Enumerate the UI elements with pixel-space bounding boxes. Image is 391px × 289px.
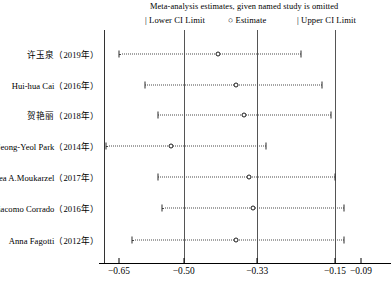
x-axis-tick xyxy=(183,258,184,263)
x-axis-tick-label: −0.33 xyxy=(246,266,268,276)
study-label: Hui-hua Cai（2016年） xyxy=(12,79,99,91)
ci-upper-cap xyxy=(335,174,336,181)
forest-plot: Meta-analysis estimates, given named stu… xyxy=(0,0,391,289)
estimate-marker xyxy=(233,238,238,243)
legend-item-1: | Lower CI Limit xyxy=(145,15,205,25)
study-label: 贺艳丽（2018年） xyxy=(27,109,99,121)
ci-lower-cap xyxy=(119,51,120,58)
estimate-marker xyxy=(242,113,247,118)
study-label: Giacomo Corrado（2016年） xyxy=(0,202,99,214)
ci-upper-cap xyxy=(343,205,344,212)
x-axis-tick xyxy=(335,258,336,263)
study-label: 许玉泉（2019年） xyxy=(27,48,99,60)
study-label: Anna Fagotti（2012年） xyxy=(9,234,99,246)
ci-lower-cap xyxy=(144,82,145,89)
study-label: Jeong-Yeol Park（2014年） xyxy=(0,140,99,152)
ci-upper-cap xyxy=(343,237,344,244)
ci-lower-cap xyxy=(157,174,158,181)
reference-line-2 xyxy=(257,30,258,263)
reference-line-3 xyxy=(335,30,336,263)
legend-item-3: | Upper CI Limit xyxy=(297,15,356,25)
estimate-marker xyxy=(233,83,238,88)
ci-line xyxy=(106,146,266,147)
ci-upper-cap xyxy=(300,51,301,58)
ci-upper-cap xyxy=(265,143,266,150)
estimate-marker xyxy=(250,206,255,211)
legend-label: Estimate xyxy=(233,15,266,25)
plot-left-frame xyxy=(104,30,105,263)
x-axis-tick xyxy=(257,258,258,263)
x-axis-tick xyxy=(119,258,120,263)
estimate-marker xyxy=(168,144,173,149)
estimate-marker xyxy=(216,52,221,57)
study-label: Lea A.Moukarzel（2017年） xyxy=(0,171,99,183)
x-axis-line xyxy=(99,263,391,264)
estimate-marker xyxy=(246,175,251,180)
ci-lower-cap xyxy=(106,143,107,150)
plot-title: Meta-analysis estimates, given named stu… xyxy=(150,2,338,11)
reference-line-1 xyxy=(184,30,185,263)
legend-item-2: ○ Estimate xyxy=(228,15,266,25)
ci-lower-cap xyxy=(157,112,158,119)
x-axis-tick-label: −0.15 xyxy=(324,266,346,276)
ci-lower-cap xyxy=(162,205,163,212)
legend-label: Upper CI Limit xyxy=(299,15,356,25)
ci-upper-cap xyxy=(330,112,331,119)
x-axis-tick-label: −0.09 xyxy=(350,266,372,276)
ci-upper-cap xyxy=(322,82,323,89)
legend-label: Lower CI Limit xyxy=(147,15,205,25)
x-axis-tick xyxy=(361,258,362,263)
ci-lower-cap xyxy=(131,237,132,244)
ci-line xyxy=(119,54,301,55)
x-axis-tick-label: −0.50 xyxy=(173,266,195,276)
x-axis-tick-label: −0.65 xyxy=(108,266,130,276)
